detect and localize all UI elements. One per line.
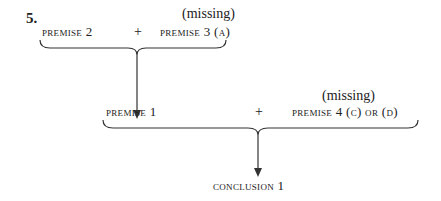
top-brace bbox=[40, 40, 226, 55]
top-missing-label: (missing) bbox=[182, 6, 235, 22]
bottom-right-premise: premise 4 (c) or (d) bbox=[292, 104, 398, 120]
top-left-premise: premise 2 bbox=[42, 24, 92, 40]
bottom-missing-label: (missing) bbox=[322, 88, 375, 104]
item-number: 5. bbox=[26, 10, 37, 27]
bottom-left-premise: premise 1 bbox=[106, 104, 156, 120]
conclusion: conclusion 1 bbox=[213, 178, 284, 194]
top-operator: + bbox=[134, 24, 142, 40]
bottom-brace bbox=[103, 120, 418, 135]
bottom-arrowhead-icon bbox=[254, 168, 262, 177]
top-right-premise: premise 3 (a) bbox=[160, 24, 230, 40]
bottom-operator: + bbox=[255, 104, 263, 120]
